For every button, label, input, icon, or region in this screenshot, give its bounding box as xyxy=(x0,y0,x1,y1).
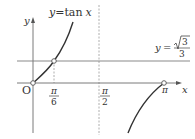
tan-curve-branch-1 xyxy=(33,22,73,83)
hline-label-y: y xyxy=(154,42,161,53)
origin-label: O xyxy=(22,84,31,97)
tick-pi-over-6-den: 6 xyxy=(51,97,57,107)
hline-label-eq: = xyxy=(163,42,171,53)
tick-pi-over-6-num: π xyxy=(50,86,58,96)
origin-open-point xyxy=(31,81,36,86)
hline-label-den: 3 xyxy=(179,49,185,59)
tick-pi-over-2-den: 2 xyxy=(102,97,108,107)
curve-label: y=tanx xyxy=(48,6,93,19)
y-axis-label: y xyxy=(23,15,30,26)
tan-curve-branch-2 xyxy=(128,83,164,133)
y-axis-arrow-icon xyxy=(31,17,35,23)
tan-graph-diagram: y=tanx y = 3 3 y x O π 6 π 2 π xyxy=(0,0,195,139)
tick-pi-over-2-num: π xyxy=(101,86,109,96)
x-axis-label: x xyxy=(182,84,188,95)
pi-over-6-open-point xyxy=(52,59,57,64)
hline-label-num: 3 xyxy=(182,37,188,47)
tick-pi: π xyxy=(161,85,169,95)
